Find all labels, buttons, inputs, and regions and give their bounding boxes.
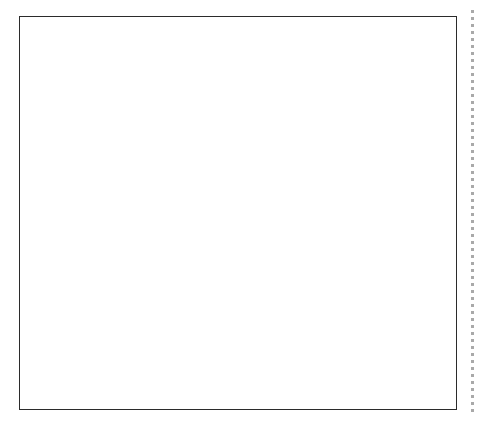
infographic-card bbox=[19, 16, 457, 410]
perforated-edge bbox=[471, 10, 474, 416]
chart-svg bbox=[20, 17, 458, 411]
page-root bbox=[0, 0, 488, 426]
chart-plot-area bbox=[20, 17, 458, 411]
chart-legend bbox=[78, 373, 438, 393]
